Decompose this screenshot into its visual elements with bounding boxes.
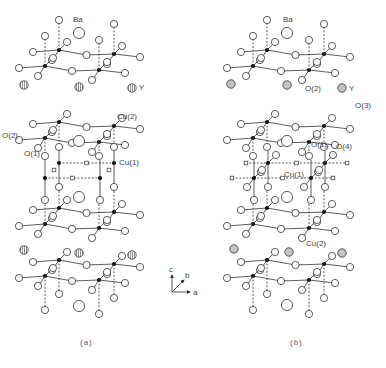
oxygen-atom bbox=[29, 258, 36, 265]
atom-label: Cu(2) bbox=[306, 239, 326, 248]
oxygen-atom bbox=[15, 274, 22, 281]
oxygen-atom bbox=[68, 277, 75, 284]
barium-atom bbox=[73, 135, 84, 146]
cu-o-bond bbox=[281, 70, 309, 71]
oxygen-atom bbox=[328, 114, 335, 121]
cu-o-bond bbox=[87, 264, 115, 265]
oxygen-atom bbox=[121, 279, 128, 286]
cu-o-bond bbox=[253, 66, 281, 71]
yttrium-atom bbox=[128, 251, 136, 259]
atom-label: Cu(1) bbox=[119, 158, 139, 167]
oxygen-atom bbox=[237, 206, 244, 213]
cu-o-bond bbox=[281, 228, 309, 229]
barium-atom bbox=[73, 27, 84, 38]
cu-o-bond bbox=[267, 122, 296, 127]
cu-o-bond bbox=[267, 50, 296, 55]
cu-o-bond bbox=[45, 66, 72, 71]
oxygen-atom bbox=[136, 211, 143, 218]
yttrium-atom bbox=[338, 249, 346, 257]
oxygen-atom bbox=[313, 130, 320, 137]
apical-oxygen-atom bbox=[41, 306, 48, 313]
oxygen-atom bbox=[223, 136, 230, 143]
oxygen-atom bbox=[237, 120, 244, 127]
oxygen-atom bbox=[88, 286, 95, 293]
oxygen-atom bbox=[223, 64, 230, 71]
vacancy-site bbox=[52, 168, 56, 172]
o1-apical-oxygen-atom bbox=[41, 152, 48, 159]
barium-atom bbox=[73, 300, 84, 311]
vacancy-site bbox=[230, 176, 234, 180]
oxygen-atom bbox=[257, 126, 264, 133]
yttrium-atom bbox=[285, 248, 293, 256]
barium-atom bbox=[73, 191, 84, 202]
copper-atom bbox=[323, 161, 327, 165]
o1-apical-oxygen-atom bbox=[110, 143, 117, 150]
atom-label: O(1) bbox=[311, 140, 327, 149]
oxygen-atom bbox=[83, 51, 90, 58]
o1-apical-oxygen-atom bbox=[95, 152, 102, 159]
copper-atom bbox=[112, 161, 116, 165]
o1-apical-oxygen-atom bbox=[41, 196, 48, 203]
oxygen-atom bbox=[346, 211, 353, 218]
o4-oxygen-atom bbox=[329, 151, 336, 158]
apical-oxygen-atom bbox=[110, 20, 117, 27]
apical-oxygen-atom bbox=[55, 16, 62, 23]
copper-atom bbox=[98, 176, 102, 180]
cu-o-bond bbox=[296, 126, 325, 127]
o4-oxygen-atom bbox=[272, 151, 279, 158]
o1-apical-oxygen-atom bbox=[250, 196, 257, 203]
yttrium-atom bbox=[227, 80, 235, 88]
copper-atom bbox=[252, 176, 256, 180]
oxygen-atom bbox=[49, 212, 56, 219]
cu-o-bond bbox=[72, 70, 99, 71]
oxygen-atom bbox=[242, 144, 249, 151]
panel-b-structure: BaO(2)YO(3)O(1)O(4)Cu(1)Cu(2) bbox=[223, 15, 371, 318]
oxygen-atom bbox=[136, 263, 143, 270]
o1-apical-oxygen-atom bbox=[263, 143, 270, 150]
oxygen-atom bbox=[63, 110, 70, 117]
oxygen-atom bbox=[298, 286, 305, 293]
oxygen-atom bbox=[34, 230, 41, 237]
oxygen-atom bbox=[313, 268, 320, 275]
oxygen-atom bbox=[118, 252, 125, 259]
apical-oxygen-atom bbox=[41, 32, 48, 39]
o1-apical-oxygen-atom bbox=[110, 183, 117, 190]
oxygen-atom bbox=[15, 222, 22, 229]
oxygen-atom bbox=[49, 54, 56, 61]
oxygen-atom bbox=[346, 53, 353, 60]
yttrium-atom bbox=[230, 245, 238, 253]
oxygen-atom bbox=[88, 148, 95, 155]
oxygen-atom bbox=[271, 248, 278, 255]
atom-label: O(2) bbox=[305, 84, 321, 93]
axis-triad: c b a bbox=[169, 265, 198, 297]
oxygen-atom bbox=[103, 58, 110, 65]
oxygen-atom bbox=[277, 67, 284, 74]
vacancy-site bbox=[295, 161, 299, 165]
barium-atom bbox=[281, 299, 292, 310]
oxygen-atom bbox=[49, 126, 56, 133]
cu-o-bond bbox=[59, 122, 87, 127]
oxygen-atom bbox=[29, 48, 36, 55]
apical-oxygen-atom bbox=[320, 20, 327, 27]
oxygen-atom bbox=[328, 42, 335, 49]
oxygen-atom bbox=[103, 130, 110, 137]
atom-label: O(2) bbox=[2, 131, 18, 140]
atom-label: O(3) bbox=[355, 101, 371, 110]
oxygen-atom bbox=[277, 277, 284, 284]
panel-a-caption: (a) bbox=[80, 338, 93, 347]
oxygen-atom bbox=[103, 216, 110, 223]
panel-b-caption: (b) bbox=[290, 338, 303, 347]
oxygen-atom bbox=[34, 282, 41, 289]
vacancy-site bbox=[331, 176, 335, 180]
b-axis-arrow bbox=[172, 280, 184, 292]
oxygen-atom bbox=[63, 196, 70, 203]
cu-o-bond bbox=[267, 208, 296, 213]
cu-o-bond bbox=[296, 54, 325, 55]
oxygen-atom bbox=[49, 264, 56, 271]
o1-apical-oxygen-atom bbox=[305, 152, 312, 159]
oxygen-atom bbox=[313, 216, 320, 223]
oxygen-atom bbox=[257, 54, 264, 61]
apical-oxygen-atom bbox=[249, 32, 256, 39]
oxygen-atom bbox=[331, 69, 338, 76]
o1-apical-oxygen-atom bbox=[55, 143, 62, 150]
